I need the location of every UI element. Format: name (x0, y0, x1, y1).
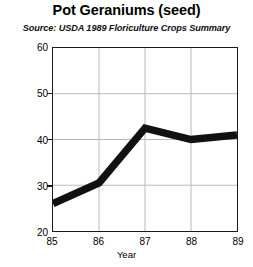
chart-figure: Pot Geraniums (seed) Source: USDA 1989 F… (0, 0, 253, 267)
y-tick-label-60: 60 (12, 42, 48, 53)
x-tick-label-86: 86 (84, 236, 114, 247)
y-tick-label-30: 30 (12, 180, 48, 191)
y-tick-label-40: 40 (12, 134, 48, 145)
x-tick-label-89: 89 (223, 236, 253, 247)
y-tick-label-50: 50 (12, 88, 48, 99)
x-tick-label-85: 85 (37, 236, 67, 247)
x-tick-label-88: 88 (177, 236, 207, 247)
chart-title: Pot Geraniums (seed) (0, 2, 253, 18)
chart-subtitle: Source: USDA 1989 Floriculture Crops Sum… (0, 23, 253, 33)
plot-svg (53, 48, 237, 231)
x-tick-label-87: 87 (130, 236, 160, 247)
x-axis-label: Year (0, 249, 253, 260)
plot-area (52, 47, 238, 232)
